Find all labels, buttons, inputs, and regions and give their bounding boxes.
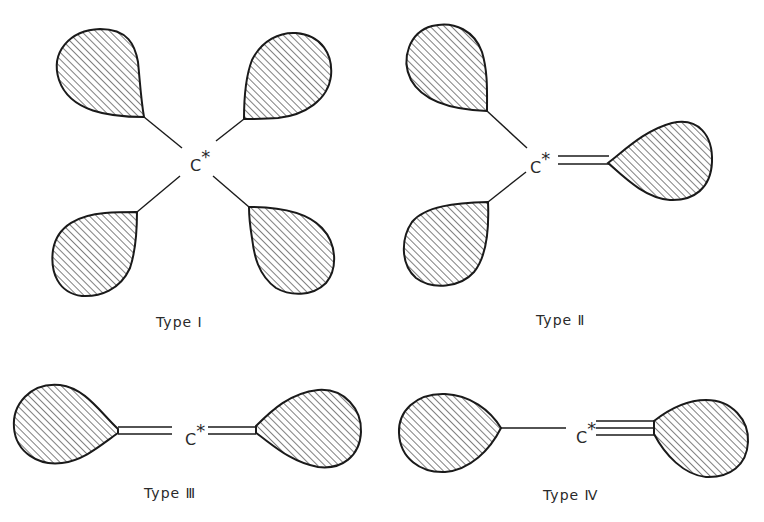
type-1-carbon-label: C* [190, 148, 210, 175]
type-2-caption: Type Ⅱ [536, 312, 586, 328]
lobe-right [654, 400, 748, 477]
type-4-caption: Type Ⅳ [543, 487, 599, 503]
orbital-diagram [0, 0, 764, 522]
excited-marker: * [541, 148, 550, 169]
atom-symbol: C [576, 428, 587, 447]
excited-marker: * [196, 420, 205, 441]
excited-marker: * [201, 146, 210, 167]
atom-symbol: C [185, 430, 196, 449]
type-1-caption: Type Ⅰ [156, 314, 203, 330]
type-3-carbon-label: C* [185, 422, 205, 449]
lobe-left [399, 394, 501, 472]
type-2-diagram [404, 24, 712, 285]
lobe-bottom-left [52, 212, 137, 296]
atom-symbol: C [190, 156, 201, 175]
lobe-top-left [407, 24, 488, 111]
lobe-left [14, 385, 118, 464]
lobe-right [608, 122, 712, 200]
lobe-bottom-right [249, 207, 334, 294]
excited-marker: * [587, 418, 596, 439]
type-4-diagram [399, 394, 748, 477]
lobe-right [256, 390, 361, 468]
lobe-top-right [244, 33, 331, 119]
atom-symbol: C [530, 158, 541, 177]
lobe-top-left [57, 29, 144, 117]
type-3-caption: Type Ⅲ [144, 485, 196, 501]
type-2-carbon-label: C* [530, 150, 550, 177]
type-4-carbon-label: C* [576, 420, 596, 447]
lobe-bottom-left [404, 202, 488, 286]
